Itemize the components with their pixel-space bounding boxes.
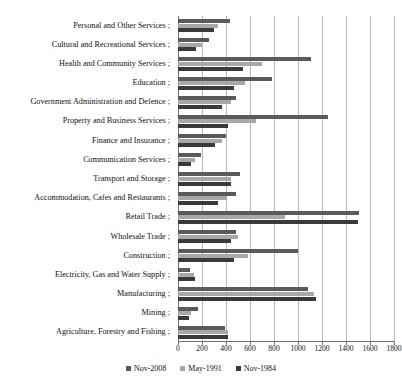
bar-may-1991 <box>178 139 222 143</box>
bar-nov-2008 <box>178 38 209 42</box>
category-label: Agriculture, Forestry and Fishing ; <box>56 327 170 336</box>
x-tick-label: 200 <box>196 344 207 354</box>
bar-nov-2008 <box>178 192 236 196</box>
bar-nov-2008 <box>178 172 240 176</box>
bar-may-1991 <box>178 292 314 296</box>
bar-nov-1984 <box>178 105 222 109</box>
bar-nov-2008 <box>178 77 272 81</box>
bar-group <box>178 304 394 323</box>
category-label: Government Administration and Defence ; <box>30 97 170 106</box>
bar-group <box>178 169 394 188</box>
bar-nov-1984 <box>178 162 191 166</box>
bar-may-1991 <box>178 330 228 334</box>
bar-nov-2008 <box>178 307 198 311</box>
bar-nov-2008 <box>178 249 298 253</box>
bar-nov-2008 <box>178 19 230 23</box>
legend-label: Nov-2008 <box>134 364 166 373</box>
bar-group <box>178 112 394 131</box>
bar-may-1991 <box>178 119 256 123</box>
x-tick-label: 1800 <box>386 344 401 354</box>
bar-group <box>178 150 394 169</box>
bar-may-1991 <box>178 254 248 258</box>
x-tick-label: 1000 <box>290 344 305 354</box>
bar-group <box>178 208 394 227</box>
bar-may-1991 <box>178 196 227 200</box>
bar-nov-2008 <box>178 287 308 291</box>
bar-may-1991 <box>178 273 194 277</box>
bar-group <box>178 189 394 208</box>
x-tick-label: 0 <box>176 344 180 354</box>
legend-item[interactable]: May-1991 <box>180 364 221 373</box>
bar-may-1991 <box>178 100 231 104</box>
x-tick-label: 400 <box>220 344 231 354</box>
bar-group <box>178 93 394 112</box>
x-tick-label: 1600 <box>362 344 377 354</box>
category-label: Property and Business Services ; <box>63 116 170 125</box>
category-axis-labels: Personal and Other Services ;Cultural an… <box>0 16 174 342</box>
bar-group <box>178 246 394 265</box>
bar-group <box>178 227 394 246</box>
bar-nov-1984 <box>178 297 316 301</box>
bar-nov-1984 <box>178 143 215 147</box>
bar-nov-1984 <box>178 201 218 205</box>
x-tick-label: 600 <box>244 344 255 354</box>
bar-nov-2008 <box>178 268 190 272</box>
category-label: Personal and Other Services ; <box>73 21 170 30</box>
bar-may-1991 <box>178 215 285 219</box>
bar-group <box>178 265 394 284</box>
bar-group <box>178 74 394 93</box>
bar-group <box>178 16 394 35</box>
category-label: Cultural and Recreational Services ; <box>52 40 170 49</box>
category-label: Construction ; <box>123 251 170 260</box>
x-tick-label: 1400 <box>338 344 353 354</box>
category-label: Retail Trade ; <box>125 212 170 221</box>
bar-may-1991 <box>178 158 195 162</box>
category-label: Communication Services ; <box>83 155 170 164</box>
bar-group <box>178 323 394 342</box>
bar-may-1991 <box>178 235 238 239</box>
bar-nov-1984 <box>178 28 214 32</box>
bar-nov-1984 <box>178 47 196 51</box>
category-label: Electricity, Gas and Water Supply ; <box>55 270 170 279</box>
bar-nov-2008 <box>178 115 328 119</box>
bar-nov-1984 <box>178 316 189 320</box>
legend-swatch-icon <box>126 366 131 371</box>
bar-nov-1984 <box>178 258 234 262</box>
bar-nov-2008 <box>178 326 225 330</box>
bar-nov-2008 <box>178 211 359 215</box>
category-label: Education ; <box>132 78 170 87</box>
bar-group <box>178 284 394 303</box>
category-label: Finance and Insurance ; <box>92 136 170 145</box>
category-label: Manufacturing ; <box>117 289 170 298</box>
category-label: Accommodation, Cafes and Restaurants ; <box>34 193 170 202</box>
category-label: Wholesale Trade ; <box>110 232 170 241</box>
header-smudge <box>30 1 190 9</box>
bar-nov-2008 <box>178 153 201 157</box>
legend-item[interactable]: Nov-2008 <box>126 364 166 373</box>
bar-may-1991 <box>178 177 231 181</box>
legend-item[interactable]: Nov-1984 <box>236 364 276 373</box>
legend-swatch-icon <box>180 366 185 371</box>
bar-may-1991 <box>178 43 202 47</box>
bar-may-1991 <box>178 311 191 315</box>
bar-may-1991 <box>178 24 218 28</box>
bar-nov-1984 <box>178 67 243 71</box>
bar-nov-1984 <box>178 182 231 186</box>
bar-group <box>178 35 394 54</box>
bar-nov-1984 <box>178 335 228 339</box>
category-label: Transport and Storage ; <box>93 174 170 183</box>
bar-nov-1984 <box>178 124 228 128</box>
x-tick-label: 800 <box>268 344 279 354</box>
value-axis-tick-labels: 020040060080010001200140016001800 <box>178 344 394 358</box>
x-tick-label: 1200 <box>314 344 329 354</box>
category-label: Health and Community Services ; <box>59 59 170 68</box>
bar-nov-1984 <box>178 220 358 224</box>
legend-label: Nov-1984 <box>244 364 276 373</box>
legend-swatch-icon <box>236 366 241 371</box>
bar-may-1991 <box>178 62 262 66</box>
bar-group <box>178 131 394 150</box>
bar-nov-2008 <box>178 134 226 138</box>
bar-nov-1984 <box>178 277 195 281</box>
legend-label: May-1991 <box>188 364 221 373</box>
bar-chart: Personal and Other Services ;Cultural an… <box>0 0 402 392</box>
